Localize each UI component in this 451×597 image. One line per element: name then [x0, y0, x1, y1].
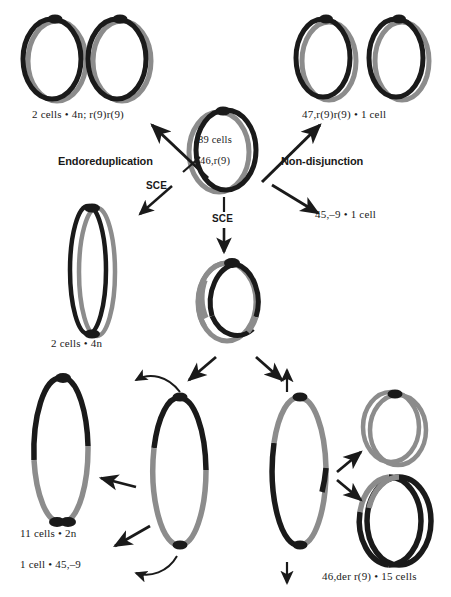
centromere-dot [216, 107, 231, 116]
ring-top-right-a [296, 15, 356, 101]
label-nondisjunction: Non-disjunction [281, 155, 363, 167]
arrows-layer [101, 125, 361, 583]
label-sce-left: SCE [146, 180, 167, 191]
ring-top-left-b [88, 15, 151, 102]
label-monosomy-bottom: 1 cell • 45,–9 [20, 558, 81, 570]
ring-bridge-left [153, 393, 206, 550]
centromere-dot [224, 258, 240, 268]
arrow-to-der-gray [337, 452, 361, 472]
centromere-dot [49, 517, 65, 527]
label-tetraploid-product: 2 cells • 4n [51, 337, 102, 349]
arrow-to-der-black [337, 480, 361, 500]
centromere-dot [48, 15, 63, 24]
centromere-dot [319, 15, 333, 24]
centromere-dot [392, 15, 406, 24]
centromere-dot [293, 393, 308, 402]
label-diploid-product: 11 cells • 2n [20, 527, 76, 539]
label-nondisjunction-product: 47,r(9)r(9) • 1 cell [302, 108, 386, 120]
arrow-to-monosomy [272, 185, 318, 213]
label-sce-center: SCE [212, 213, 233, 224]
ring-der-small-gray [363, 390, 426, 466]
label-monosomy-product: 45,–9 • 1 cell [315, 208, 376, 220]
ring-parent-center [189, 107, 256, 193]
arrow-bridge-to-monosomy [115, 526, 150, 546]
arrow-to-endoreduplication-product [152, 125, 208, 178]
label-parent-cells: 89 cells [198, 134, 232, 145]
centromere-dot [173, 393, 188, 402]
centromere-dot [113, 15, 128, 24]
label-parent-karyotype: 46,r(9) [200, 155, 230, 166]
chromosome-pathway-figure: 2 cells • 4n; r(9)r(9) 47,r(9)r(9) • 1 c… [0, 0, 451, 597]
arrow-to-nondisjunction-product [262, 125, 320, 182]
centromere-dot [60, 517, 76, 527]
label-der-product: 46,der r(9) • 15 cells [322, 570, 417, 582]
ring-top-left-a [23, 15, 86, 102]
arrow-sce-product-to-right [256, 357, 282, 380]
centromere-dot [293, 541, 308, 550]
centromere-dot [84, 204, 100, 213]
centromere-dot [388, 390, 403, 399]
centromere-dot [55, 373, 71, 383]
ring-drawings-layer [0, 0, 451, 597]
ring-diploid-elongated [34, 373, 88, 527]
label-endoreduplication: Endoreduplication [58, 155, 153, 167]
label-endoreduplication-product: 2 cells • 4n; r(9)r(9) [32, 108, 124, 120]
ring-tetraploid-elongated [70, 204, 115, 339]
ring-der-large-black [359, 477, 431, 565]
ring-bridge-right [272, 393, 326, 550]
arrow-bridge-to-diploid [101, 478, 136, 487]
centromere-dot [173, 541, 188, 550]
ring-sce-product [198, 258, 258, 341]
arrow-curved-to-diploid [136, 376, 180, 392]
arrow-sce-product-to-left [189, 357, 216, 380]
ring-top-right-b [369, 15, 429, 101]
arrow-sce-left-dash-a [183, 157, 200, 172]
arrow-curved-bottom [136, 556, 177, 575]
